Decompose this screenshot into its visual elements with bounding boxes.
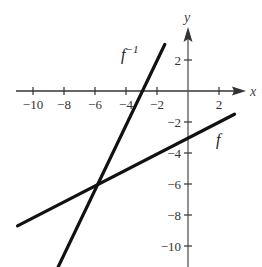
- y-ticks: 2−2−4−6−8−10: [161, 53, 192, 254]
- x-tick-label: −8: [57, 97, 71, 112]
- x-tick-label: −6: [88, 97, 102, 112]
- y-tick-label: −6: [167, 177, 181, 192]
- x-tick-label: 2: [216, 97, 223, 112]
- y-tick-label: −2: [167, 115, 181, 130]
- y-tick-label: 2: [175, 53, 182, 68]
- y-tick-label: −10: [161, 239, 181, 254]
- f-line: [18, 114, 235, 226]
- f-inverse-exponent: −1: [125, 43, 138, 55]
- f-inverse-label: f−1: [121, 43, 138, 64]
- x-axis-label: x: [249, 84, 257, 99]
- y-tick-label: −8: [167, 208, 181, 223]
- function-lines: [18, 45, 235, 267]
- chart-svg: −10−8−6−4−22 2−2−4−6−8−10 x y f f−1: [0, 0, 262, 267]
- graph: −10−8−6−4−22 2−2−4−6−8−10 x y f f−1: [0, 0, 262, 267]
- x-tick-label: −2: [150, 97, 164, 112]
- f-label: f: [216, 131, 223, 149]
- y-axis-label: y: [182, 10, 191, 25]
- x-axis-arrow-icon: [232, 87, 246, 96]
- x-tick-label: −10: [23, 97, 43, 112]
- f-inverse-line: [58, 45, 165, 267]
- x-tick-label: −4: [119, 97, 133, 112]
